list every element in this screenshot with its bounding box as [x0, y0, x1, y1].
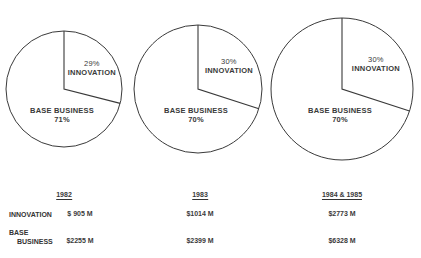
innovation-pct: 30% — [205, 57, 253, 66]
innovation-pct: 30% — [352, 55, 400, 64]
innovation-name: INNOVATION — [352, 64, 400, 73]
row-label-base-line2: BUSINESS — [17, 237, 53, 246]
base-business-slice-label: BASE BUSINESS70% — [308, 106, 372, 124]
cell-base-1983: $2399 M — [186, 237, 213, 244]
year-header-1983: 1983 — [192, 191, 208, 200]
innovation-slice-label: 30%INNOVATION — [205, 57, 253, 75]
year-header-1982: 1982 — [56, 191, 72, 200]
base-business-name: BASE BUSINESS — [164, 106, 228, 115]
cell-base-1984-1985: $6328 M — [328, 237, 355, 244]
pie-2 — [271, 18, 413, 160]
base-business-name: BASE BUSINESS — [308, 106, 372, 115]
cell-base-1982: $2255 M — [66, 237, 93, 244]
cell-innovation-1982: $ 905 M — [67, 210, 92, 217]
pie-0 — [6, 31, 122, 147]
pie-1 — [134, 25, 262, 153]
cell-innovation-1983: $1014 M — [186, 210, 213, 217]
base-business-pct: 70% — [308, 115, 372, 124]
cell-innovation-1984-1985: $2773 M — [328, 210, 355, 217]
base-business-name: BASE BUSINESS — [30, 106, 94, 115]
innovation-slice-label: 30%INNOVATION — [352, 55, 400, 73]
base-business-pct: 70% — [164, 115, 228, 124]
year-header-1984-1985: 1984 & 1985 — [322, 191, 362, 200]
base-business-pct: 71% — [30, 115, 94, 124]
pie-charts — [0, 0, 421, 175]
innovation-name: INNOVATION — [205, 66, 253, 75]
base-business-slice-label: BASE BUSINESS70% — [164, 106, 228, 124]
innovation-slice-label: 29%INNOVATION — [68, 59, 116, 77]
row-label-base-line1: BASE — [9, 228, 28, 237]
innovation-name: INNOVATION — [68, 68, 116, 77]
innovation-pct: 29% — [68, 59, 116, 68]
base-business-slice-label: BASE BUSINESS71% — [30, 106, 94, 124]
row-label-innovation: INNOVATION — [9, 210, 52, 219]
